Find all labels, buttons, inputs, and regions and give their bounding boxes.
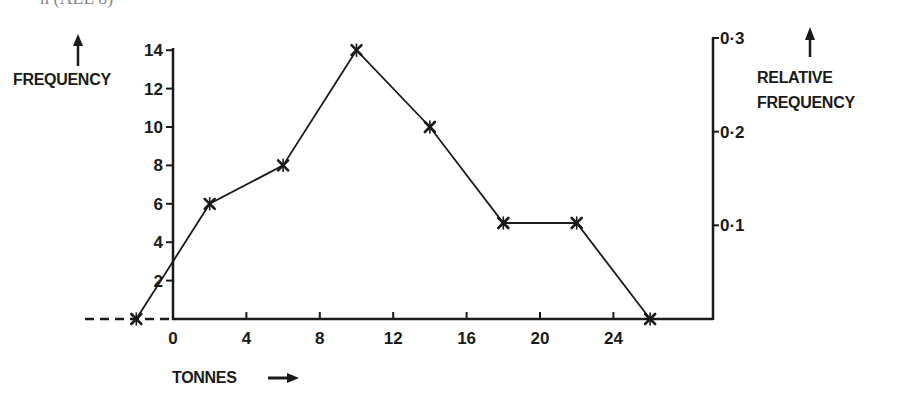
x-axis-label: TONNES [172,369,237,387]
y2-tick-label: 0·2 [720,123,745,142]
frequency-arrow-icon [73,34,83,66]
x-tick-label: 16 [457,329,476,348]
x-marker-icon [425,121,435,133]
x-tick-label: 12 [384,329,403,348]
y2-tick-label: 0·1 [720,216,745,235]
x-tick-label: 20 [531,329,550,348]
x-tick-label: 8 [315,329,324,348]
x-tick-label: 0 [168,329,177,348]
frequency-polygon-chart: 2468101214 0·10·20·3 04812162024 [0,0,904,409]
relative-frequency-arrow-icon [805,27,815,57]
y-tick-label: 8 [154,156,163,175]
x-ticks: 04812162024 [168,312,623,348]
x-marker-icon [352,44,362,56]
y-tick-label: 10 [144,118,163,137]
x-marker-icon [205,198,215,210]
y-tick-label: 2 [154,272,163,291]
y-tick-label: 4 [154,233,164,252]
y-tick-label: 6 [154,195,163,214]
y-tick-label: 14 [144,41,163,60]
tonnes-arrow-icon [268,373,299,383]
x-marker-icon [278,159,288,171]
y-axis-label: FREQUENCY [13,71,111,89]
y-tick-label: 12 [144,80,163,99]
x-tick-label: 24 [604,329,623,348]
y2-axis-label-line1: RELATIVE [757,69,833,87]
y2-axis-label-line2: FREQUENCY [757,94,855,112]
x-tick-label: 4 [242,329,252,348]
left-y-ticks: 2468101214 [144,41,173,290]
y2-tick-label: 0·3 [720,29,745,48]
frequency-polygon-line [136,50,650,319]
data-point-markers [131,44,655,325]
right-y-ticks: 0·10·20·3 [713,29,745,235]
